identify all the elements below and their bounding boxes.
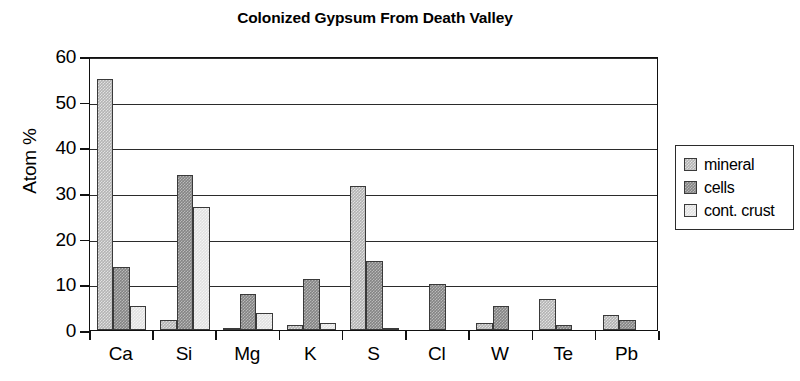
x-axis-tick-label: Te: [532, 343, 595, 365]
x-axis-tick-label: Ca: [89, 343, 152, 365]
x-axis-tick: K: [279, 331, 342, 377]
y-axis-tick-mark: [80, 240, 89, 242]
gridline: [90, 241, 657, 242]
y-axis-tick-mark: [80, 148, 89, 150]
bar-Mg-contcrust: [256, 313, 273, 330]
legend-item-cells[interactable]: cells: [684, 176, 786, 199]
x-axis-ticks: CaSiMgKSClWTePb: [89, 331, 658, 377]
y-axis-tick-label: 30: [55, 182, 76, 205]
x-axis-tick-label: S: [342, 343, 405, 365]
chart-title: Colonized Gypsum From Death Valley: [90, 9, 660, 27]
bar-Mg-mineral: [223, 328, 240, 330]
legend-swatch-icon: [684, 181, 697, 194]
legend-item-label: cont. crust: [704, 202, 775, 220]
x-axis-tick-mark: [532, 331, 534, 340]
bar-K-contcrust: [320, 323, 337, 330]
x-axis-tick-label: Cl: [405, 343, 468, 365]
chart-figure: Colonized Gypsum From Death Valley Atom …: [0, 0, 800, 381]
y-axis-ticks: 6050403020100: [0, 57, 89, 331]
legend-swatch-icon: [684, 204, 697, 217]
bar-S-contcrust: [383, 328, 400, 330]
chart-legend: mineralcellscont. crust: [675, 145, 794, 230]
bar-Pb-cells: [619, 320, 636, 330]
x-axis-tick-label: Mg: [215, 343, 278, 365]
bar-Si-contcrust: [193, 207, 210, 330]
bar-Ca-mineral: [97, 79, 114, 330]
bar-W-mineral: [476, 323, 493, 330]
bar-Mg-cells: [240, 294, 257, 330]
y-axis-tick-label: 50: [55, 91, 76, 114]
legend-item-label: cells: [704, 179, 735, 197]
x-axis-tick-label: Si: [152, 343, 215, 365]
y-axis-tick-label: 60: [55, 45, 76, 68]
x-axis-tick: S: [342, 331, 405, 377]
bar-Cl-cells: [429, 284, 446, 330]
x-axis-tick-mark: [152, 331, 154, 340]
bar-Te-mineral: [539, 299, 556, 330]
x-axis-tick-mark: [342, 331, 344, 340]
plot-area: [89, 57, 658, 331]
x-axis-tick-mark: [89, 331, 91, 340]
y-axis-tick-mark: [80, 285, 89, 287]
x-axis-tick: Ca: [89, 331, 152, 377]
bar-Te-cells: [556, 325, 573, 330]
x-axis-tick-mark: [405, 331, 407, 340]
x-axis-tick: Te: [532, 331, 595, 377]
bar-Si-cells: [177, 175, 194, 330]
x-axis-tick-mark: [658, 331, 660, 340]
y-axis-tick-label: 40: [55, 136, 76, 159]
x-axis-tick-label: K: [279, 343, 342, 365]
bar-W-cells: [493, 306, 510, 330]
x-axis-tick: Pb: [595, 331, 658, 377]
legend-item-mineral[interactable]: mineral: [684, 153, 786, 176]
legend-swatch-icon: [684, 158, 697, 171]
y-axis-tick-mark: [80, 103, 89, 105]
y-axis-tick-mark: [80, 194, 89, 196]
bar-Si-mineral: [160, 320, 177, 330]
y-axis-tick-label: 0: [66, 319, 76, 342]
y-axis-tick-label: 20: [55, 228, 76, 251]
gridline: [90, 149, 657, 150]
x-axis-tick: Mg: [215, 331, 278, 377]
legend-item-contcrust[interactable]: cont. crust: [684, 199, 786, 222]
bar-S-mineral: [350, 186, 367, 330]
x-axis-tick-mark: [595, 331, 597, 340]
x-axis-tick: Cl: [405, 331, 468, 377]
gridline: [90, 195, 657, 196]
bar-K-cells: [303, 279, 320, 330]
x-axis-tick: W: [468, 331, 531, 377]
y-axis-tick-mark: [80, 331, 89, 333]
x-axis-tick-mark: [279, 331, 281, 340]
x-axis-tick-mark: [215, 331, 217, 340]
bar-Ca-contcrust: [130, 306, 147, 330]
x-axis-tick-label: Pb: [595, 343, 658, 365]
x-axis-tick-mark: [468, 331, 470, 340]
legend-item-label: mineral: [704, 156, 754, 174]
gridline: [90, 58, 657, 59]
bar-K-mineral: [287, 325, 304, 330]
y-axis-tick-label: 10: [55, 273, 76, 296]
x-axis-tick: Si: [152, 331, 215, 377]
y-axis-tick-mark: [80, 57, 89, 59]
bar-Ca-cells: [113, 267, 130, 330]
gridline: [90, 104, 657, 105]
bar-Pb-mineral: [603, 315, 620, 330]
bar-S-cells: [366, 261, 383, 330]
x-axis-tick-label: W: [468, 343, 531, 365]
